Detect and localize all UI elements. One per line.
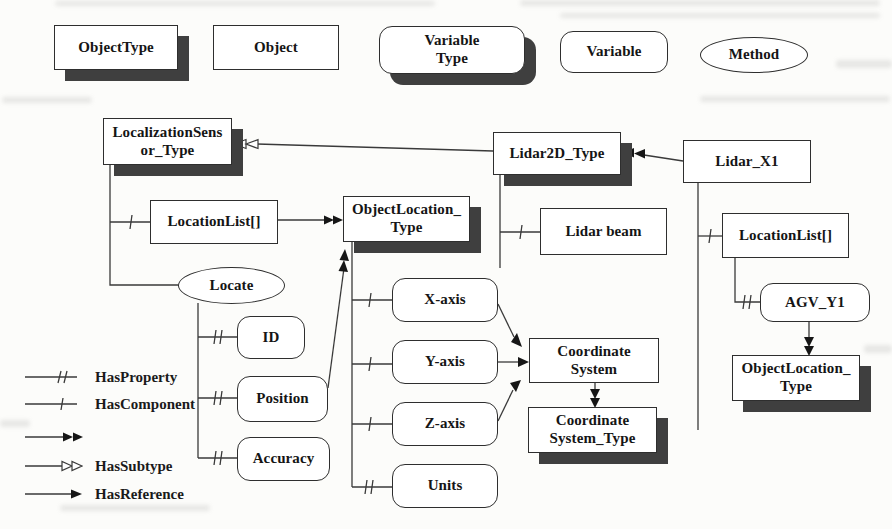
node-lidar2d-type-label: Lidar2D_Type [509, 145, 604, 163]
opcua-information-model-diagram: ObjectType Object Variable Type Variable… [0, 0, 892, 529]
edge-agvy1-to-objectlocation [804, 322, 814, 356]
node-y-axis-label: Y-axis [425, 353, 465, 371]
node-locationlist-right: LocationList[] [722, 213, 849, 258]
node-locationlist-right-label: LocationList[] [739, 227, 832, 245]
palette-method: Method [700, 37, 808, 73]
node-coordinate-system-type: Coordinate System_Type [528, 407, 657, 453]
node-accuracy: Accuracy [237, 437, 330, 481]
legend-hassubtype: HasSubtype [25, 458, 173, 474]
node-accuracy-label: Accuracy [253, 450, 315, 468]
node-id-label: ID [263, 329, 280, 347]
palette-variable-type-label: Variable Type [424, 32, 479, 67]
node-objectlocation-type-instance-label: ObjectLocation_ Type [742, 360, 851, 395]
lidar2d-spine [500, 175, 540, 268]
node-objectlocation-type-label: ObjectLocation_ Type [352, 201, 461, 236]
palette-variable-type: Variable Type [379, 26, 525, 74]
palette-variable: Variable [560, 31, 668, 73]
legend-hassubtype-label: HasSubtype [95, 459, 173, 474]
node-agv-y1-label: AGV_Y1 [785, 294, 845, 312]
legend-hasproperty: HasProperty [25, 369, 177, 385]
node-locationlist-left: LocationList[] [150, 200, 278, 244]
node-objectlocation-type-instance: ObjectLocation_ Type [732, 355, 860, 401]
node-y-axis: Y-axis [392, 340, 498, 384]
palette-variable-label: Variable [586, 43, 641, 61]
node-position-label: Position [256, 390, 308, 408]
palette-method-label: Method [729, 46, 780, 64]
hasproperty-symbol-icon [25, 369, 83, 385]
locate-spine [198, 303, 237, 465]
node-coordinate-system-label: Coordinate System [557, 343, 631, 378]
legend-hascomponent-label: HasComponent [95, 397, 195, 412]
node-units-label: Units [428, 477, 463, 495]
legend-hasproperty-label: HasProperty [95, 370, 177, 385]
hastypedefinition-edge-lidarx1-to-lidar2d [623, 148, 683, 161]
double-filled-arrow-icon [25, 429, 83, 445]
node-lidar2d-type: Lidar2D_Type [493, 132, 621, 175]
legend-hascomponent: HasComponent [25, 396, 195, 412]
legend-hasreference-label: HasReference [95, 487, 184, 502]
node-z-axis: Z-axis [392, 402, 498, 446]
hascomponent-symbol-icon [25, 396, 83, 412]
node-locationlist-left-label: LocationList[] [167, 213, 260, 231]
node-position: Position [237, 376, 328, 422]
objectlocation-spine [352, 242, 392, 494]
node-x-axis: X-axis [392, 278, 498, 322]
node-agv-y1: AGV_Y1 [760, 283, 870, 322]
palette-object-type-label: ObjectType [78, 39, 154, 57]
hasreference-symbol-icon [25, 486, 83, 502]
lidarx1-spine [698, 183, 722, 430]
node-lidar-beam-label: Lidar beam [565, 223, 641, 241]
node-localizationsensor-type-label: LocalizationSens or_Type [113, 124, 223, 159]
diagram-edges [0, 0, 892, 529]
node-localizationsensor-type: LocalizationSens or_Type [103, 118, 232, 165]
node-locate-method-label: Locate [210, 277, 254, 295]
node-id: ID [237, 316, 305, 359]
palette-object-type: ObjectType [54, 25, 178, 70]
node-units: Units [392, 464, 498, 508]
edge-coordinatesystem-to-type [590, 383, 600, 408]
legend-hastypedefinition [25, 429, 95, 445]
hassubtype-symbol-icon [25, 458, 83, 474]
palette-object: Object [213, 25, 339, 70]
node-z-axis-label: Z-axis [425, 415, 466, 433]
legend-hasreference: HasReference [25, 486, 184, 502]
node-lidar-beam: Lidar beam [540, 208, 667, 255]
node-locate-method: Locate [178, 267, 285, 304]
edge-locationlist-to-objectlocation [278, 216, 343, 225]
locationlist-right-spine [735, 258, 760, 309]
node-objectlocation-type: ObjectLocation_ Type [343, 196, 470, 242]
palette-object-label: Object [254, 39, 298, 57]
node-lidar-x1: Lidar_X1 [683, 140, 811, 183]
node-coordinate-system-type-label: Coordinate System_Type [550, 412, 636, 447]
hassubtype-edge-lidar2d-to-localizationsensor [234, 140, 493, 152]
node-x-axis-label: X-axis [424, 291, 465, 309]
node-lidar-x1-label: Lidar_X1 [715, 153, 778, 171]
node-coordinate-system: Coordinate System [529, 338, 659, 383]
edge-zaxis-to-coordinatesystem [498, 380, 521, 421]
edge-position-to-objectlocation [328, 249, 349, 388]
edge-xaxis-to-coordinatesystem [498, 304, 522, 347]
edge-yaxis-to-coordinatesystem [498, 357, 529, 367]
